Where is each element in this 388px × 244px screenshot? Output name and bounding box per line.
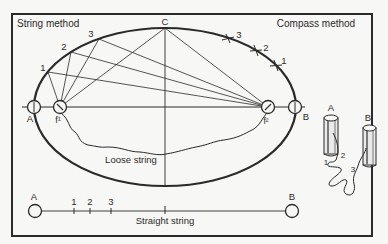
straight-tick-3: 3 (108, 196, 113, 207)
pin-b (289, 101, 302, 114)
cylinder-b (363, 125, 376, 167)
loose-string-label: Loose string (105, 154, 157, 165)
straight-tick-1: 1 (71, 196, 76, 207)
focus-f2-pin (262, 101, 275, 114)
cylinder-label-b: B (365, 112, 371, 123)
compass-method-title: Compass method (277, 18, 355, 29)
straight-string-end-b (286, 205, 299, 218)
straight-string-label: Straight string (136, 215, 195, 226)
cylinder-tick-1: 1 (324, 158, 329, 167)
straight-string-label-b: B (289, 191, 295, 202)
compass-point-2: 2 (263, 42, 268, 53)
label-b: B (303, 111, 309, 122)
straight-string-end-a (29, 205, 42, 218)
label-c: C (162, 16, 169, 27)
label-a: A (27, 113, 34, 124)
straight-tick-2: 2 (87, 196, 92, 207)
string-point-2: 2 (61, 41, 66, 52)
label-f1: f¹ (55, 115, 61, 125)
string-point-1: 1 (40, 62, 45, 73)
cylinder-tick-2: 2 (341, 151, 346, 160)
cylinder-tick-3: 3 (351, 165, 356, 174)
string-point-3: 3 (88, 28, 93, 39)
cylinder-a (324, 115, 338, 156)
loose-string (61, 113, 267, 155)
compass-point-3: 3 (236, 29, 241, 40)
string-method-title: String method (17, 18, 79, 29)
cylinder-label-a: A (328, 102, 335, 113)
pin-a (28, 101, 41, 114)
focus-f1-pin (54, 101, 67, 114)
straight-string-label-a: A (31, 191, 38, 202)
ellipse-construction-diagram: String method Compass method C A f¹ f² B… (0, 0, 388, 244)
label-f2: f² (263, 116, 268, 126)
compass-point-1: 1 (281, 55, 286, 66)
